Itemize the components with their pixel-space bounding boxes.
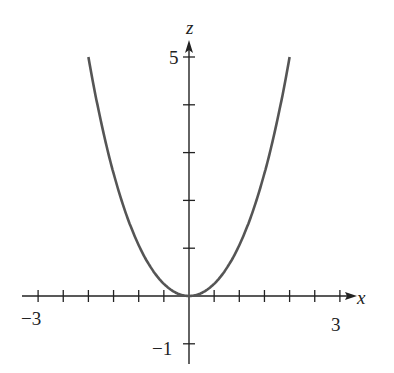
x-tick-label-min: −3 bbox=[21, 308, 41, 329]
axes bbox=[22, 40, 357, 364]
x-tick-label-max: 3 bbox=[331, 314, 341, 335]
z-axis-label: z bbox=[185, 17, 194, 38]
x-axis-label: x bbox=[356, 287, 366, 308]
z-tick-label-max: 5 bbox=[169, 47, 179, 68]
z-tick-label-min: −1 bbox=[152, 338, 172, 359]
chart: x z −3 3 5 −1 bbox=[0, 0, 394, 373]
